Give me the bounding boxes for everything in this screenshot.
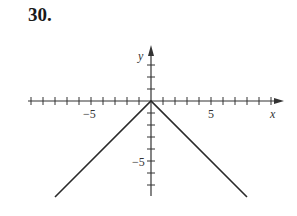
- y-axis-label: y: [137, 49, 144, 63]
- x-axis: [28, 97, 284, 105]
- y-axis: [147, 45, 155, 196]
- x-tick-label-5: 5: [208, 107, 214, 121]
- x-tick-label-neg5: −5: [83, 107, 96, 121]
- graph: x y −5 5 −5: [0, 0, 297, 216]
- x-axis-label: x: [269, 107, 276, 121]
- y-tick-label-neg5: −5: [132, 155, 145, 169]
